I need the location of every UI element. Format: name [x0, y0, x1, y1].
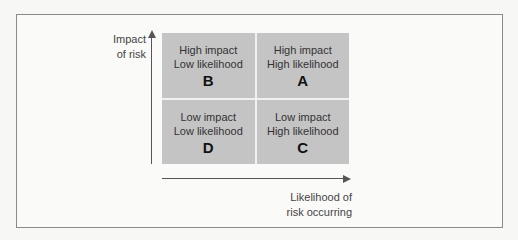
y-axis-arrow-head-icon	[148, 30, 156, 38]
x-axis-label-line2: risk occurring	[280, 205, 352, 220]
quadrant-line2: Low likelihood	[162, 57, 255, 71]
quadrant-line1: Low impact	[257, 110, 350, 124]
y-axis-arrow	[151, 34, 152, 164]
quadrant-line2: High likelihood	[257, 57, 350, 71]
quadrant-letter: D	[162, 141, 255, 155]
quadrant-line1: Low impact	[162, 110, 255, 124]
quadrant-line2: Low likelihood	[162, 124, 255, 138]
quadrant-line1: High impact	[257, 43, 350, 57]
quadrant-line2: High likelihood	[257, 124, 350, 138]
x-axis-label: Likelihood of risk occurring	[280, 190, 352, 220]
x-axis-label-line1: Likelihood of	[280, 190, 352, 205]
quadrant-line1: High impact	[162, 43, 255, 57]
risk-matrix: High impact Low likelihood B High impact…	[162, 33, 349, 164]
quadrant-letter: B	[162, 74, 255, 88]
quadrant-letter: A	[257, 74, 350, 88]
y-axis-label-line2: of risk	[100, 47, 146, 62]
quadrant-a: High impact High likelihood A	[257, 33, 350, 98]
quadrant-letter: C	[257, 141, 350, 155]
y-axis-label: Impact of risk	[100, 32, 146, 62]
quadrant-b: High impact Low likelihood B	[162, 33, 255, 98]
quadrant-c: Low impact High likelihood C	[257, 100, 350, 165]
y-axis-label-line1: Impact	[100, 32, 146, 47]
x-axis-arrow	[162, 178, 344, 179]
quadrant-d: Low impact Low likelihood D	[162, 100, 255, 165]
x-axis-arrow-head-icon	[343, 175, 351, 183]
